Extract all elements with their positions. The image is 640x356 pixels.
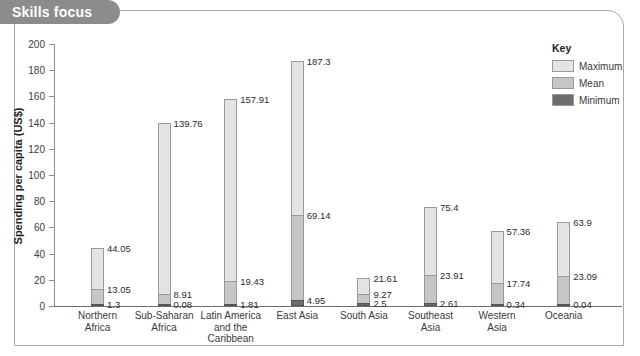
legend-item[interactable]: Maximum [552,60,634,72]
y-axis-tick-label: 20 [34,274,45,285]
y-axis-tick-label: 40 [34,248,45,259]
y-axis-tick-label: 80 [34,196,45,207]
bar-value-label: 63.9 [573,217,592,228]
legend-swatch [552,77,574,89]
y-axis-tick-label: 60 [34,222,45,233]
chart-legend: Key MaximumMeanMinimum [552,42,634,111]
bar-segment-mean[interactable] [491,283,504,306]
bar-segment-minimum[interactable] [158,304,171,307]
bar-value-label: 44.05 [107,243,131,254]
bar-value-label: 2.5 [373,297,386,308]
bar-group[interactable]: 75.423.912.61 [424,44,437,306]
x-axis-category-line: Asia [452,322,542,334]
legend-item[interactable]: Mean [552,77,634,89]
bar-segment-minimum[interactable] [557,304,570,307]
x-axis-line [54,306,622,307]
bar-value-label: 17.74 [507,277,531,288]
bar-value-label: 187.3 [307,55,331,66]
y-axis-tick-label: 100 [28,170,45,181]
bar-segment-minimum[interactable] [224,304,237,307]
legend-label: Maximum [579,61,622,72]
bar-group[interactable]: 57.3617.740.34 [491,44,504,306]
bar-segment-mean[interactable] [424,275,437,306]
bar-segment-minimum[interactable] [291,300,304,306]
bar-value-label: 4.95 [307,294,326,305]
bar-value-label: 1.3 [107,298,120,309]
bar-value-label: 0.08 [174,298,193,309]
y-axis-tick-label: 200 [28,39,45,50]
chart-page: Skills focus Spending per capita (US$) 0… [0,0,640,356]
bar-value-label: 0.34 [507,298,526,309]
bar-segment-mean[interactable] [291,215,304,306]
x-axis-category-line: Oceania [519,310,609,322]
legend-items: MaximumMeanMinimum [552,60,634,106]
bar-group[interactable]: 187.369.144.95 [291,44,304,306]
bar-group[interactable]: 157.9119.431.81 [224,44,237,306]
y-axis-tick-label: 140 [28,117,45,128]
bar-value-label: 69.14 [307,210,331,221]
bar-value-label: 157.91 [240,94,269,105]
bar-value-label: 75.4 [440,202,459,213]
y-axis-title: Spending per capita (US$) [11,44,25,307]
panel-title: Skills focus [0,4,92,20]
bar-value-label: 1.81 [240,298,259,309]
bar-segment-minimum[interactable] [491,304,504,307]
bar-segment-maximum[interactable] [224,99,237,306]
plot-area: 44.0513.051.3139.768.910.08157.9119.431.… [54,44,540,306]
bar-segment-mean[interactable] [557,276,570,306]
bar-segment-maximum[interactable] [158,123,171,306]
legend-label: Minimum [579,95,620,106]
bar-value-label: 57.36 [507,225,531,236]
x-axis-category-line: Caribbean [186,333,276,345]
legend-label: Mean [579,78,604,89]
x-axis-category-label: Oceania [519,310,609,322]
legend-swatch [552,60,574,72]
bar-value-label: 2.61 [440,297,459,308]
y-axis-tick-label: 120 [28,143,45,154]
legend-item[interactable]: Minimum [552,94,634,106]
x-axis-category-line: and the [186,322,276,334]
bar-value-label: 19.43 [240,275,264,286]
legend-swatch [552,94,574,106]
bar-group[interactable]: 139.768.910.08 [158,44,171,306]
bar-group[interactable]: 44.0513.051.3 [91,44,104,306]
bar-segment-minimum[interactable] [91,304,104,307]
bar-value-label: 21.61 [373,272,397,283]
bar-value-label: 139.76 [174,117,203,128]
y-axis-tick-label: 180 [28,65,45,76]
bar-value-label: 23.09 [573,270,597,281]
bar-group[interactable]: 21.619.272.5 [357,44,370,306]
bar-segment-minimum[interactable] [424,303,437,306]
legend-title: Key [552,42,634,54]
panel-title-tab: Skills focus [0,0,120,24]
bar-segment-mean[interactable] [224,281,237,306]
y-axis-tick-label: 0 [39,301,45,312]
bar-value-label: 13.05 [107,283,131,294]
y-axis-title-text: Spending per capita (US$) [12,107,24,244]
bar-value-label: 23.91 [440,269,464,280]
bar-value-label: 0.04 [573,298,592,309]
bar-segment-minimum[interactable] [357,303,370,306]
y-axis-tick-label: 160 [28,91,45,102]
